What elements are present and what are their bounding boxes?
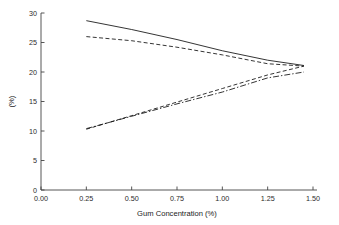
- x-tick-label: 1.25: [261, 194, 275, 203]
- y-tick-label: 25: [29, 38, 37, 47]
- y-tick-label: 15: [29, 97, 37, 106]
- y-axis-title: (%): [7, 95, 16, 107]
- y-tick-label: 10: [29, 127, 37, 136]
- line-chart: 0.000.250.500.751.001.251.50 05101520253…: [0, 0, 339, 225]
- y-tick-label: 0: [33, 186, 37, 195]
- chart-container: 0.000.250.500.751.001.251.50 05101520253…: [0, 0, 339, 225]
- x-tick-label: 0.00: [34, 194, 48, 203]
- y-tick-label: 20: [29, 68, 37, 77]
- x-tick-label: 0.50: [125, 194, 139, 203]
- series-lower-dashed: [86, 66, 304, 129]
- series-upper-dashed: [86, 37, 304, 67]
- y-tick-label: 30: [29, 9, 37, 18]
- x-tick-label: 1.50: [306, 194, 320, 203]
- y-axis-ticks: 051015202530: [29, 9, 45, 195]
- x-tick-label: 0.25: [79, 194, 93, 203]
- series-upper-solid: [86, 21, 304, 66]
- x-tick-label: 0.75: [170, 194, 184, 203]
- x-axis-title: Gum Concentration (%): [137, 209, 217, 218]
- y-tick-label: 5: [33, 156, 37, 165]
- x-tick-label: 1.00: [215, 194, 229, 203]
- x-axis-ticks: 0.000.250.500.751.001.251.50: [34, 187, 320, 204]
- data-series-group: [86, 21, 304, 130]
- series-lower-dash-dot: [86, 72, 304, 129]
